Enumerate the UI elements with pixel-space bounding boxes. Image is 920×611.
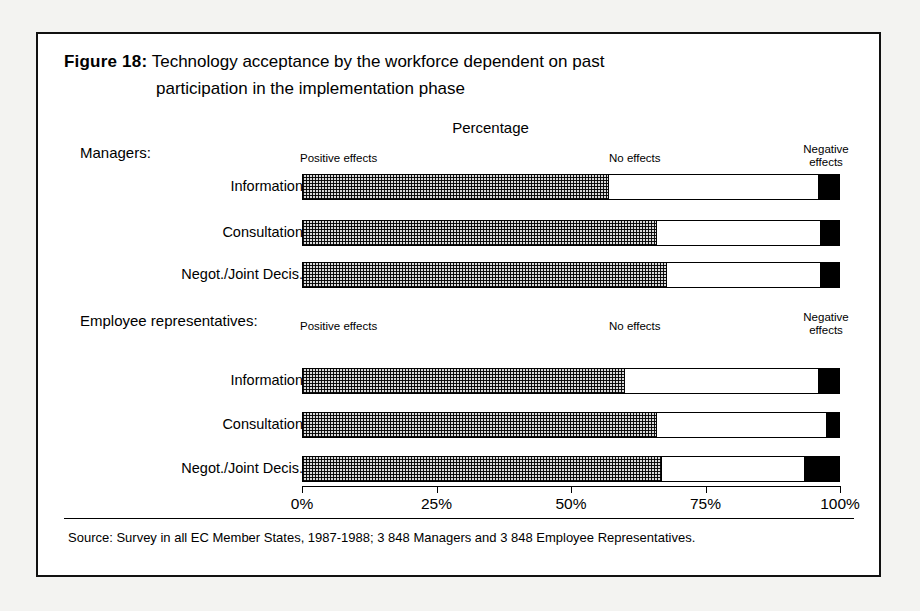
bar-track xyxy=(302,174,840,200)
bar-segment-positive xyxy=(303,457,662,481)
bar-segment-positive xyxy=(303,175,609,199)
bar-row-label: Consultation xyxy=(222,224,303,240)
bar-row-label: Negot./Joint Decis. xyxy=(181,266,303,282)
x-axis-tick xyxy=(571,486,572,493)
bar-segment-negative xyxy=(826,413,839,437)
bar-segment-none xyxy=(667,263,820,287)
bar-track xyxy=(302,412,840,438)
x-axis-tick xyxy=(706,486,707,493)
x-axis: 0%25%50%75%100% xyxy=(302,486,840,487)
x-axis-tick xyxy=(437,486,438,493)
legend-label-negative-employees: Negative effects xyxy=(788,311,864,337)
bar-track xyxy=(302,262,840,288)
x-axis-tick xyxy=(302,486,303,493)
bar-row: Negot./Joint Decis. xyxy=(38,262,883,292)
bar-segment-negative xyxy=(820,263,839,287)
bar-segment-positive xyxy=(303,369,625,393)
bar-segment-negative xyxy=(818,175,839,199)
chart-plot-area: Information Consultation Negot./Joint De… xyxy=(38,34,883,579)
x-axis-tick-label: 25% xyxy=(421,495,452,513)
x-axis-tick-label: 100% xyxy=(820,495,860,513)
bar-row-label: Information xyxy=(230,178,303,194)
bar-segment-none xyxy=(657,221,820,245)
figure-frame: Figure 18: Technology acceptance by the … xyxy=(36,32,881,577)
legend-employees: Positive effects No effects Negative eff… xyxy=(38,310,883,340)
bar-row: Information xyxy=(38,174,883,204)
bar-segment-negative xyxy=(818,369,839,393)
bar-track xyxy=(302,368,840,394)
bar-segment-negative xyxy=(820,221,839,245)
x-axis-tick-label: 0% xyxy=(291,495,313,513)
bar-segment-positive xyxy=(303,263,667,287)
bar-segment-none xyxy=(662,457,804,481)
bar-row: Negot./Joint Decis. xyxy=(38,456,883,486)
bar-segment-none xyxy=(657,413,826,437)
bar-row-label: Information xyxy=(230,372,303,388)
source-note: Source: Survey in all EC Member States, … xyxy=(68,530,695,545)
legend-label-none-employees: No effects xyxy=(609,320,661,333)
source-divider xyxy=(64,518,854,519)
bar-track xyxy=(302,456,840,482)
x-axis-tick xyxy=(840,486,841,493)
legend-label-positive-employees: Positive effects xyxy=(300,320,377,333)
bar-segment-positive xyxy=(303,413,657,437)
x-axis-tick-label: 75% xyxy=(690,495,721,513)
bar-row: Consultation xyxy=(38,412,883,442)
bar-segment-negative xyxy=(804,457,839,481)
bar-row-label: Negot./Joint Decis. xyxy=(181,460,303,476)
legend-label-negative-line1-employees: Negative xyxy=(788,311,864,324)
bar-row: Information xyxy=(38,368,883,398)
bar-segment-positive xyxy=(303,221,657,245)
x-axis-tick-label: 50% xyxy=(555,495,586,513)
bar-segment-none xyxy=(609,175,818,199)
bar-segment-none xyxy=(625,369,818,393)
legend-label-negative-line2-employees: effects xyxy=(788,324,864,337)
bar-row-label: Consultation xyxy=(222,416,303,432)
bar-row: Consultation xyxy=(38,220,883,250)
bar-track xyxy=(302,220,840,246)
